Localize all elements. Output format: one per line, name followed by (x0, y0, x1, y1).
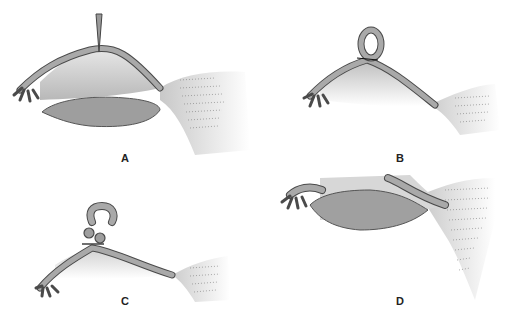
panel-label-d: D (396, 295, 404, 307)
panel-d: D (250, 160, 509, 316)
tube-stump-distal (95, 233, 105, 243)
broad-ligament (172, 256, 230, 302)
broad-ligament (430, 84, 500, 135)
illustration-tube-ovary-postop (250, 160, 509, 316)
panel-c: C (0, 160, 250, 316)
tube-stump-proximal (84, 228, 94, 238)
illustration-tube-loop-ligated (250, 0, 509, 150)
illustration-tube-with-clamp (0, 0, 250, 150)
panel-b: B (250, 0, 509, 150)
ovary (42, 97, 160, 126)
fimbriae (304, 94, 328, 106)
panel-a: A (0, 0, 250, 150)
fimbriae (14, 88, 38, 101)
illustration-excised-segment (0, 160, 250, 316)
broad-ligament (160, 72, 250, 155)
fimbriae (282, 196, 306, 208)
panel-label-c: C (121, 295, 129, 307)
